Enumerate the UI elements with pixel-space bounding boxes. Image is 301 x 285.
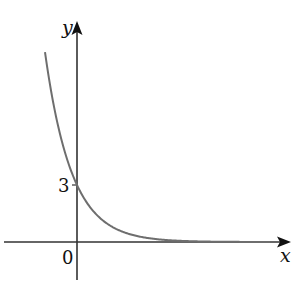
decay-curve <box>45 52 270 242</box>
y-tick-label-3: 3 <box>58 175 69 196</box>
x-axis-label: x <box>280 244 291 266</box>
origin-label: 0 <box>62 247 73 268</box>
graph: y x 0 3 <box>0 0 301 285</box>
y-axis-label: y <box>61 16 73 38</box>
